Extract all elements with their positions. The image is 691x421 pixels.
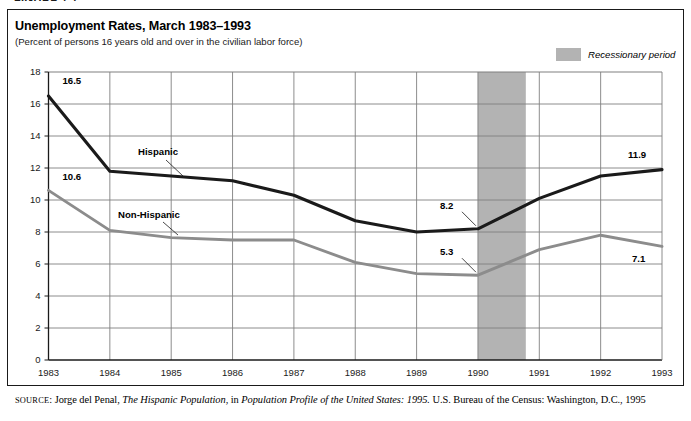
source-tail: U.S. Bureau of the Census: Washington, D… bbox=[430, 394, 646, 405]
source-mid: , in bbox=[226, 394, 242, 405]
figure-page: FIGURE 7.1 Unemployment Rates, March 198… bbox=[0, 0, 691, 421]
source-publication: Population Profile of the United States:… bbox=[241, 394, 430, 405]
recession-swatch bbox=[556, 48, 581, 61]
figure-frame bbox=[7, 9, 684, 386]
source-note: SOURCE: Jorge del Penal, The Hispanic Po… bbox=[15, 394, 646, 405]
chart-legend: Recessionary period bbox=[556, 48, 675, 61]
clipped-figure-heading: FIGURE 7.1 bbox=[14, 0, 78, 1]
source-work: The Hispanic Population bbox=[122, 394, 225, 405]
chart-subtitle: (Percent of persons 16 years old and ove… bbox=[15, 36, 302, 47]
source-author: Jorge del Penal, bbox=[55, 394, 123, 405]
source-label: SOURCE bbox=[15, 396, 49, 405]
chart-title: Unemployment Rates, March 1983–1993 bbox=[15, 19, 251, 33]
recession-legend-label: Recessionary period bbox=[588, 49, 675, 60]
